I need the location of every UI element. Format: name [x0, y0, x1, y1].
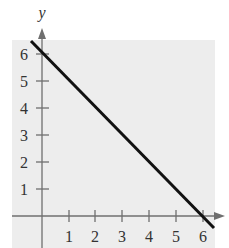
- y-axis-title: y: [36, 4, 46, 22]
- y-tick-label-3: 3: [20, 127, 28, 144]
- y-tick-label-5: 5: [20, 73, 28, 90]
- x-tick-label-3: 3: [118, 228, 126, 245]
- y-tick-label-1: 1: [20, 181, 28, 198]
- x-tick-label-5: 5: [172, 228, 180, 245]
- y-tick-label-2: 2: [20, 154, 28, 171]
- x-tick-label-1: 1: [65, 228, 73, 245]
- y-axis-arrow-icon: [38, 28, 46, 39]
- x-tick-label-2: 2: [91, 228, 99, 245]
- y-tick-label-4: 4: [20, 100, 28, 117]
- x-tick-label-4: 4: [145, 228, 153, 245]
- chart: 1 2 3 4 5 6 1 2 3 4 5 6 y: [0, 0, 229, 248]
- x-tick-label-6: 6: [199, 228, 207, 245]
- y-tick-label-6: 6: [20, 46, 28, 63]
- x-axis-arrow-icon: [214, 212, 225, 220]
